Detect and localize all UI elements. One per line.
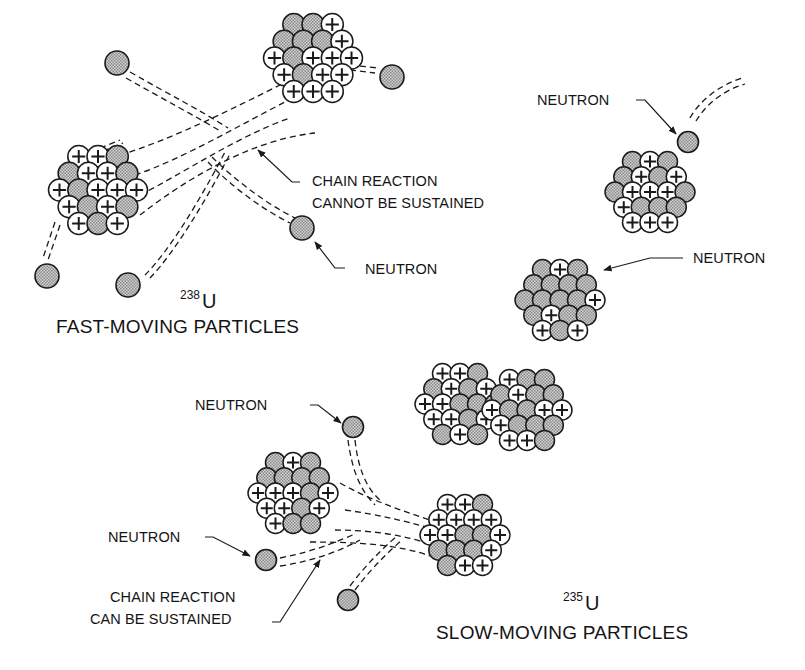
chain-cannot-label-line2: CANNOT BE SUSTAINED [312, 194, 484, 213]
nucleus-u238-right [264, 14, 363, 103]
mass-number: 235 [563, 590, 583, 604]
neutron-label-absorbed: NEUTRON [693, 249, 765, 268]
chain-can-label-line2: CAN BE SUSTAINED [90, 610, 232, 629]
neutron-particle [105, 51, 129, 75]
neutron-label-u235-left: NEUTRON [108, 528, 180, 547]
isotope-u235: 235U [563, 590, 599, 615]
element-symbol: U [202, 290, 216, 312]
mass-number: 238 [180, 288, 200, 302]
nucleus-u235-excited [515, 260, 605, 341]
nucleus-u238-left [49, 146, 148, 235]
neutron-particle [535, 430, 555, 450]
caption-fast-moving: FAST-MOVING PARTICLES [56, 316, 299, 338]
neutron-particle [116, 273, 140, 297]
neutron-particle [35, 264, 59, 288]
chain-can-label-line1: CHAIN REACTION [110, 588, 235, 607]
neutron-particle [468, 424, 488, 444]
neutron-label-u238: NEUTRON [365, 260, 437, 279]
neutron-particle [256, 550, 277, 571]
chain-cannot-label-line1: CHAIN REACTION [312, 172, 437, 191]
isotope-u238: 238U [180, 288, 216, 313]
neutron-label-u235-top: NEUTRON [195, 396, 267, 415]
nucleus-u235-lower-right [420, 495, 510, 576]
element-symbol: U [585, 592, 599, 614]
neutron-particle [678, 132, 699, 153]
nucleus-u235-lower-left [248, 453, 338, 534]
neutron-label-incoming: NEUTRON [537, 91, 609, 110]
nucleus-u235-intact [605, 152, 695, 233]
caption-slow-moving: SLOW-MOVING PARTICLES [436, 622, 688, 644]
nucleus-fragment-right [482, 370, 572, 451]
neutron-particle [380, 65, 404, 89]
neutron-particle [338, 590, 359, 611]
neutron-particle [301, 514, 321, 534]
neutron-particle [290, 216, 314, 240]
neutron-particle [343, 417, 364, 438]
